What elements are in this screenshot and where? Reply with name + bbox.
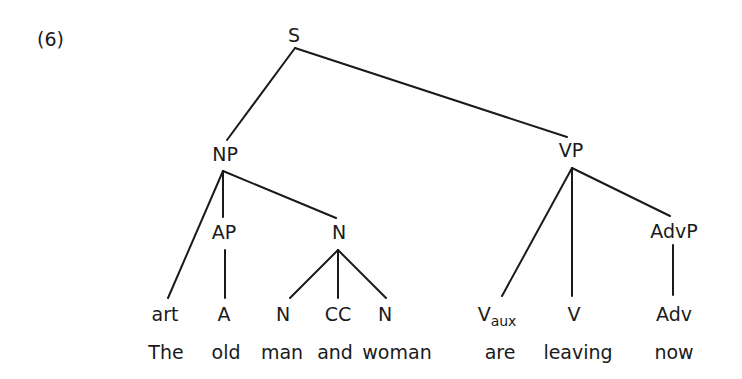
syntax-tree-lines [0,0,742,379]
node-advp: AdvP [650,220,697,242]
edge-vp-advp [572,168,670,216]
word-man: man [261,341,303,363]
edge-s-np [227,48,295,140]
node-cc: CC [325,303,352,325]
node-n2: N [378,303,392,325]
example-number: (6) [37,28,64,50]
node-np: NP [212,143,238,165]
node-n1: N [276,303,290,325]
edge-np-n [223,171,336,218]
edge-vp-vaux [502,168,572,296]
node-vp: VP [559,139,583,161]
word-woman: woman [362,341,431,363]
word-and: and [317,341,353,363]
word-leaving: leaving [543,341,612,363]
node-vaux-main: V [478,303,491,325]
word-old: old [212,341,241,363]
node-adv: Adv [656,303,692,325]
word-are: are [485,341,516,363]
edge-s-vp [295,48,567,137]
word-now: now [654,341,693,363]
node-n-phrase: N [332,221,346,243]
word-the: The [148,341,183,363]
node-vaux: Vaux [478,303,517,332]
edge-n-n1 [290,250,338,298]
node-vaux-subscript: aux [491,313,517,329]
node-art: art [152,303,179,325]
edge-n-n2 [338,250,386,298]
node-ap: AP [212,221,236,243]
node-s: S [288,24,300,46]
node-v: V [568,303,581,325]
node-a: A [218,303,231,325]
